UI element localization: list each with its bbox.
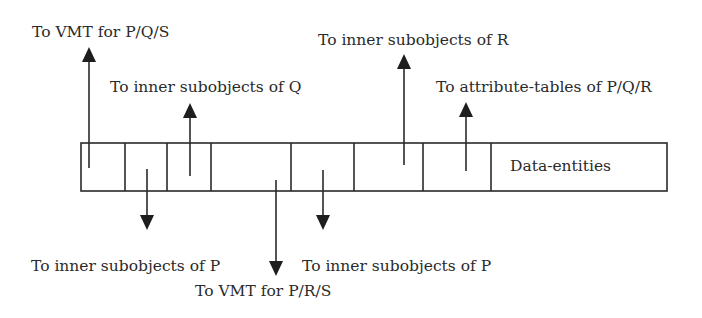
pointer-1-label: To VMT for P/Q/S [32,25,169,41]
pointer-2-label: To inner subobjects of P [31,259,220,275]
arrow-up-icon [183,103,197,118]
arrow-down-icon [316,215,330,230]
arrow-up-icon [397,54,411,69]
pointer-6-label: To inner subobjects of R [318,33,508,49]
arrow-down-icon [140,215,154,230]
arrow-up-icon [82,47,96,62]
arrow-down-icon [269,261,283,276]
pointer-3-label: To inner subobjects of Q [110,80,301,96]
data-entities-cell-label: Data-entities [510,159,611,175]
pointer-5-label: To inner subobjects of P [302,259,491,275]
pointer-4-label: To VMT for P/R/S [195,284,331,300]
pointer-7-label: To attribute-tables of P/Q/R [436,80,652,96]
arrow-up-icon [459,102,473,117]
